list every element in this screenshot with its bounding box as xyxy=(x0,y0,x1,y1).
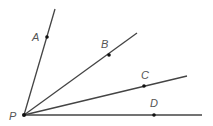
points-group xyxy=(22,35,156,117)
ray-pa xyxy=(24,9,55,115)
rays-group xyxy=(24,9,202,115)
point-a xyxy=(45,35,49,39)
point-b xyxy=(107,53,111,57)
vertex-point-p xyxy=(22,113,26,117)
ray-pc xyxy=(24,76,187,115)
label-d: D xyxy=(150,97,158,109)
label-c: C xyxy=(141,69,149,81)
label-a: A xyxy=(31,31,39,43)
label-b: B xyxy=(101,38,108,50)
geometry-diagram: ABCDP xyxy=(0,0,213,126)
ray-pb xyxy=(24,33,137,115)
point-d xyxy=(152,113,156,117)
labels-group: ABCDP xyxy=(9,31,158,122)
label-p: P xyxy=(9,110,17,122)
point-c xyxy=(142,84,146,88)
